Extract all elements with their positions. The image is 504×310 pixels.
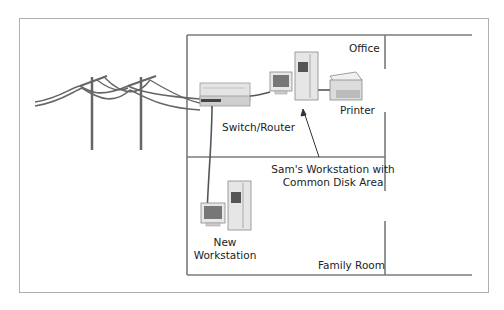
room-label-office: Office	[349, 42, 380, 55]
device-label-sams-workstation: Sam's Workstation with Common Disk Area	[268, 163, 398, 189]
label-line: Workstation	[190, 249, 260, 262]
tower-pc-icon	[228, 181, 251, 230]
device-label-new-workstation: New Workstation	[190, 236, 260, 262]
network-cables	[207, 90, 330, 215]
monitor-icon	[270, 72, 292, 94]
device-label-printer: Printer	[340, 104, 375, 117]
utility-pole-icon	[35, 76, 200, 150]
network-diagram	[0, 0, 504, 310]
tower-pc-icon	[295, 52, 318, 100]
label-line: New	[190, 236, 260, 249]
device-label-switch-router: Switch/Router	[222, 121, 295, 134]
room-label-family-room: Family Room	[318, 259, 385, 272]
label-line: Common Disk Area	[268, 176, 398, 189]
pointer-arrow	[301, 109, 319, 157]
monitor-icon	[201, 203, 225, 226]
printer-icon	[330, 72, 362, 100]
switch-router-icon	[200, 83, 250, 106]
label-line: Sam's Workstation with	[268, 163, 398, 176]
